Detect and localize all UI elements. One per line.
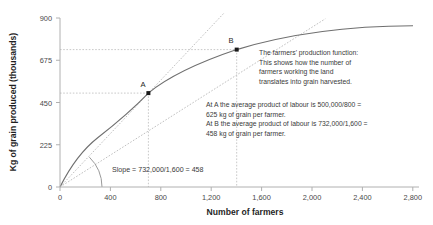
point-marker-a (146, 91, 150, 95)
production-note-line-3: farmers working the land (259, 68, 334, 76)
average-note-line-3: At B the average product of labour is 73… (206, 120, 368, 128)
y-axis-title: Kg of grain produced (thousands) (8, 33, 18, 172)
x-tick-labels: 0 400 800 1,200 1,600 2,000 2,400 2,800 (58, 193, 422, 202)
y-tick-label-225: 225 (40, 141, 52, 150)
x-tick-label-400: 400 (104, 193, 116, 202)
production-function-note: The farmers' production function: This s… (259, 49, 358, 86)
x-axis-title: Number of farmers (207, 207, 284, 217)
y-tick-label-0: 0 (48, 183, 52, 192)
average-note-line-1: At A the average product of labour is 50… (206, 101, 361, 109)
y-tick-label-900: 900 (40, 14, 52, 23)
production-note-line-1: The farmers' production function: (259, 49, 358, 57)
point-label-b: B (228, 36, 233, 45)
slope-note: Slope = 732,000/1,600 = 458 (112, 166, 204, 174)
y-tick-label-675: 675 (40, 56, 52, 65)
point-label-a: A (140, 80, 146, 89)
average-note-line-2: 625 kg of grain per farmer. (206, 111, 286, 119)
x-tick-label-2000: 2,000 (303, 193, 322, 202)
chart-canvas: 900 675 450 225 0 0 400 800 1,200 1,600 … (0, 0, 433, 225)
x-tick-label-1200: 1,200 (202, 193, 221, 202)
x-tick-label-0: 0 (58, 193, 62, 202)
x-tick-label-2400: 2,400 (353, 193, 372, 202)
x-tick-label-2800: 2,800 (404, 193, 423, 202)
x-tick-label-800: 800 (155, 193, 167, 202)
point-marker-b (235, 48, 239, 52)
average-product-note: At A the average product of labour is 50… (206, 101, 368, 138)
x-tick-label-1600: 1,600 (252, 193, 271, 202)
average-note-line-4: 458 kg of grain per farmer. (206, 130, 286, 138)
production-note-line-4: translates into grain harvested. (259, 78, 352, 86)
production-function-chart: 900 675 450 225 0 0 400 800 1,200 1,600 … (0, 0, 433, 225)
production-note-line-2: This shows how the number of (259, 59, 351, 66)
y-tick-labels: 900 675 450 225 0 (40, 14, 52, 192)
y-tick-label-450: 450 (40, 99, 52, 108)
slope-arc (89, 157, 102, 187)
